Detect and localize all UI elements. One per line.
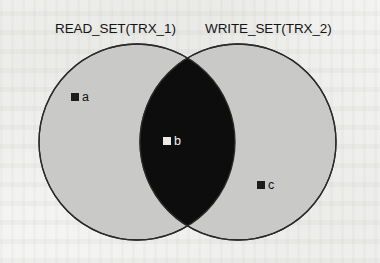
- element-label-c: c: [268, 179, 274, 192]
- write-set-label: WRITE_SET(TRX_2): [205, 21, 332, 36]
- element-marker-c: c: [257, 179, 274, 192]
- square-marker-icon: [71, 93, 79, 101]
- venn-diagram-figure: READ_SET(TRX_1) WRITE_SET(TRX_2) a b c: [0, 0, 380, 263]
- element-marker-a: a: [71, 91, 89, 104]
- square-marker-icon: [163, 137, 171, 145]
- element-label-a: a: [82, 91, 89, 104]
- element-label-b: b: [174, 135, 181, 148]
- square-marker-icon: [257, 181, 265, 189]
- venn-diagram-graphic: [0, 0, 380, 263]
- element-marker-b: b: [163, 135, 181, 148]
- read-set-label: READ_SET(TRX_1): [55, 21, 176, 36]
